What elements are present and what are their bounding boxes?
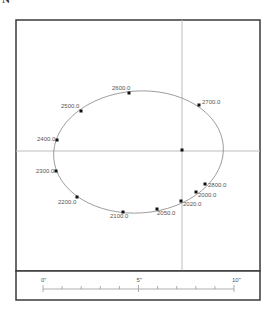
scale-label: 0" xyxy=(41,277,46,283)
point-label: 2100.0 xyxy=(110,213,129,219)
point-marker xyxy=(55,170,58,173)
scale-label: 10" xyxy=(232,277,241,283)
orbit-point: 2000.0 xyxy=(195,191,218,199)
point-label: 2300.0 xyxy=(36,168,55,174)
point-marker xyxy=(204,183,207,186)
point-label: 2400.0 xyxy=(37,136,56,142)
scale-label: 5" xyxy=(137,277,142,283)
orbit-point: 2020.0 xyxy=(180,200,203,208)
point-marker xyxy=(198,104,201,107)
point-marker xyxy=(56,139,59,142)
point-label: 2600.0 xyxy=(112,85,131,91)
point-label: 2500.0 xyxy=(61,103,80,109)
point-label: 2000.0 xyxy=(198,192,217,198)
finder-chart: 2600.02700.02500.02400.02300.02200.02100… xyxy=(0,0,277,310)
point-marker xyxy=(128,92,131,95)
point-label: 2200.0 xyxy=(58,199,77,205)
point-marker xyxy=(80,110,83,113)
point-label: 2700.0 xyxy=(202,99,221,105)
orbit-point: 2400.0 xyxy=(37,136,59,142)
point-label: 2020.0 xyxy=(183,201,202,207)
orbit-point: 2300.0 xyxy=(36,168,58,174)
orbit-point: 2800.0 xyxy=(204,182,228,188)
center-point xyxy=(181,149,184,152)
point-label: 2050.0 xyxy=(157,210,176,216)
point-label: 2800.0 xyxy=(208,182,227,188)
scale-bar-frame xyxy=(16,271,260,300)
